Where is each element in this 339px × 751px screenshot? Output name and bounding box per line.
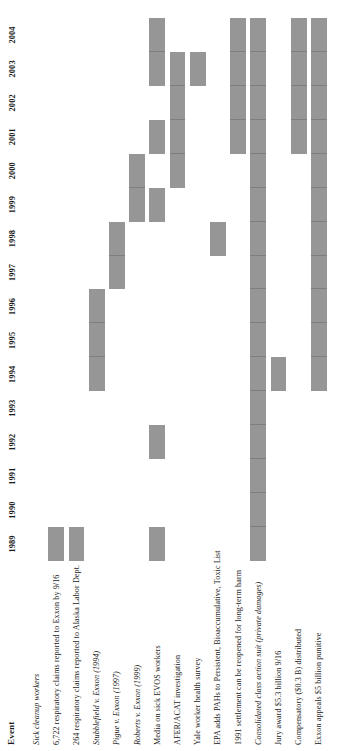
gantt-bar — [291, 18, 307, 154]
gantt-bar-year-separator — [129, 187, 145, 188]
gantt-bar-year-separator — [250, 255, 266, 256]
gantt-bar-year-separator — [250, 221, 266, 222]
gantt-bar-year-separator — [291, 51, 307, 52]
row-label: 6,722 respiratory claims reported to Exx… — [52, 561, 61, 745]
year-tick-2004: 2004 — [8, 18, 18, 52]
row-label: Pigue v. Exxon (1997) — [112, 561, 121, 745]
row-label: AFER/ACAT investigation — [173, 561, 182, 745]
row-label: 264 respiratory claims reported to Alask… — [72, 561, 81, 745]
row-label: EPA adds PAHs to Persistent, Bioaccumula… — [213, 561, 222, 745]
year-tick-2002: 2002 — [8, 86, 18, 120]
row-label: 1991 settlement can be reopened for long… — [234, 561, 243, 745]
gantt-bar-year-separator — [311, 119, 327, 120]
gantt-bar — [149, 425, 165, 459]
gantt-bar-year-separator — [311, 153, 327, 154]
gantt-bar-year-separator — [311, 322, 327, 323]
gantt-bar-year-separator — [250, 356, 266, 357]
year-tick-1997: 1997 — [8, 256, 18, 290]
gantt-bar-year-separator — [230, 85, 246, 86]
year-tick-2000: 2000 — [8, 154, 18, 188]
gantt-bar — [149, 120, 165, 154]
gantt-bar-year-separator — [250, 289, 266, 290]
gantt-bar-year-separator — [230, 119, 246, 120]
gantt-bar — [149, 527, 165, 561]
year-tick-1998: 1998 — [8, 222, 18, 256]
year-tick-1999: 1999 — [8, 188, 18, 222]
year-tick-1991: 1991 — [8, 459, 18, 493]
year-tick-2001: 2001 — [8, 120, 18, 154]
gantt-bar — [170, 52, 186, 188]
gantt-bar-year-separator — [170, 85, 186, 86]
gantt-bar — [210, 222, 226, 256]
gantt-bar-year-separator — [291, 85, 307, 86]
gantt-bar-year-separator — [230, 51, 246, 52]
gantt-bar-year-separator — [250, 119, 266, 120]
gantt-bar — [271, 357, 287, 391]
row-label: Media on sick EVOS workers — [153, 561, 162, 745]
gantt-bar-year-separator — [250, 390, 266, 391]
gantt-bar-year-separator — [109, 255, 125, 256]
gantt-bar-year-separator — [89, 356, 105, 357]
gantt-bar — [69, 527, 85, 561]
gantt-bar-year-separator — [250, 492, 266, 493]
year-tick-2003: 2003 — [8, 52, 18, 86]
gantt-bar-year-separator — [311, 187, 327, 188]
year-tick-1992: 1992 — [8, 425, 18, 459]
gantt-bar-year-separator — [250, 526, 266, 527]
gantt-bar — [311, 18, 327, 391]
gantt-bar — [109, 222, 125, 290]
gantt-bar-year-separator — [250, 85, 266, 86]
gantt-bar — [129, 154, 145, 222]
gantt-bar-year-separator — [250, 187, 266, 188]
gantt-bar-year-separator — [311, 255, 327, 256]
gantt-bar-year-separator — [311, 51, 327, 52]
gantt-bar — [48, 527, 64, 561]
gantt-bar-year-separator — [311, 289, 327, 290]
gantt-bar-year-separator — [170, 119, 186, 120]
year-tick-1994: 1994 — [8, 357, 18, 391]
row-label: Jury award $5.3 billion 9/16 — [274, 561, 283, 745]
gantt-bar — [190, 52, 206, 86]
row-label: Sick cleanup workers — [32, 561, 41, 745]
gantt-bar — [230, 18, 246, 154]
gantt-bar-year-separator — [250, 424, 266, 425]
year-tick-1996: 1996 — [8, 290, 18, 324]
gantt-bar-year-separator — [170, 153, 186, 154]
gantt-bar-year-separator — [250, 322, 266, 323]
year-tick-1990: 1990 — [8, 493, 18, 527]
gantt-bar-year-separator — [250, 458, 266, 459]
row-label: Exxon appeals $5 billion punitive — [314, 561, 323, 745]
year-tick-1993: 1993 — [8, 391, 18, 425]
row-label: Compensatory ($0.3 B) distributed — [294, 561, 303, 745]
gantt-bar-year-separator — [250, 51, 266, 52]
event-column-header: Event — [7, 561, 16, 745]
row-label: Roberts v. Exxon (1999) — [133, 561, 142, 745]
gantt-bar-year-separator — [311, 85, 327, 86]
gantt-bar-year-separator — [311, 356, 327, 357]
year-tick-1989: 1989 — [8, 527, 18, 561]
gantt-bar — [250, 18, 266, 561]
event-label-column: EventSick cleanup workers6,722 respirato… — [0, 561, 339, 751]
gantt-chart: EventSick cleanup workers6,722 respirato… — [0, 0, 339, 751]
gantt-bar-year-separator — [311, 221, 327, 222]
gantt-bar-year-separator — [291, 119, 307, 120]
year-tick-1995: 1995 — [8, 323, 18, 357]
gantt-bar-year-separator — [250, 153, 266, 154]
figure-rotator: EventSick cleanup workers6,722 respirato… — [0, 0, 339, 751]
gantt-bar-year-separator — [149, 51, 165, 52]
gantt-bar — [149, 188, 165, 222]
row-label: Yale worker health survey — [193, 561, 202, 745]
gantt-bar — [89, 290, 105, 392]
row-label: Consolidated class action suit (private … — [254, 561, 263, 745]
timeline-plot-area: 1989199019911992199319941995199619971998… — [0, 0, 339, 561]
row-label: Stubblefield v. Exxon (1994) — [92, 561, 101, 745]
gantt-bar — [149, 18, 165, 86]
gantt-bar-year-separator — [89, 322, 105, 323]
